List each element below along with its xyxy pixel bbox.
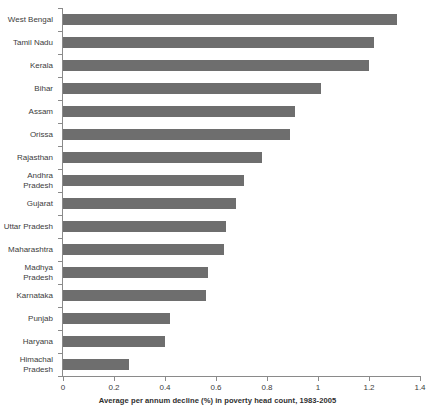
bar-row: [63, 215, 420, 238]
category-label: Uttar Pradesh: [0, 215, 58, 238]
bar-row: [63, 261, 420, 284]
bar-row: [63, 8, 420, 31]
y-axis-tick: [58, 100, 62, 101]
x-axis-tick-label: 0.4: [145, 383, 185, 392]
y-axis-tick: [58, 376, 62, 377]
category-label-text: Tamil Nadu: [13, 38, 58, 48]
category-label: Assam: [0, 100, 58, 123]
x-axis-tick-label: 1.4: [400, 383, 435, 392]
bar-row: [63, 77, 420, 100]
x-axis-tick: [63, 377, 64, 381]
category-label-text: Punjab: [28, 314, 58, 324]
x-axis-tick: [114, 377, 115, 381]
category-label-text: Madhya Pradesh: [0, 263, 58, 282]
category-label: Kerala: [0, 54, 58, 77]
bar: [63, 267, 208, 278]
bar: [63, 14, 397, 25]
category-label-text: Assam: [29, 107, 58, 117]
category-label-text: Haryana: [23, 337, 58, 347]
bar: [63, 83, 321, 94]
category-label: Andhra Pradesh: [0, 169, 58, 192]
category-label-text: Maharashtra: [8, 245, 58, 255]
x-axis-tick: [165, 377, 166, 381]
y-axis-tick: [58, 169, 62, 170]
category-label-text: Himachal Pradesh: [0, 355, 58, 374]
y-axis-tick: [58, 123, 62, 124]
category-label: Tamil Nadu: [0, 31, 58, 54]
bar-row: [63, 284, 420, 307]
y-axis-tick: [58, 215, 62, 216]
bar-row: [63, 31, 420, 54]
bar: [63, 60, 369, 71]
category-label-text: Rajasthan: [17, 153, 58, 163]
x-axis-tick-label: 1: [298, 383, 338, 392]
bar-row: [63, 100, 420, 123]
x-axis-tick-label: 0.2: [94, 383, 134, 392]
bar-row: [63, 307, 420, 330]
x-axis-line: [62, 376, 421, 377]
poverty-decline-bar-chart: West BengalTamil NaduKeralaBiharAssamOri…: [0, 0, 435, 413]
category-label: Punjab: [0, 307, 58, 330]
x-axis-tick-label: 1.2: [349, 383, 389, 392]
bar: [63, 129, 290, 140]
category-label: Orissa: [0, 123, 58, 146]
y-axis-tick: [58, 192, 62, 193]
x-axis-tick: [420, 377, 421, 381]
bar: [63, 175, 244, 186]
y-axis-tick: [58, 8, 62, 9]
x-axis-title: Average per annum decline (%) in poverty…: [0, 396, 435, 405]
bar: [63, 359, 129, 370]
bar: [63, 37, 374, 48]
x-axis-tick: [318, 377, 319, 381]
category-label: Karnataka: [0, 284, 58, 307]
bar-row: [63, 123, 420, 146]
category-label: Maharashtra: [0, 238, 58, 261]
category-label-text: Andhra Pradesh: [0, 171, 58, 190]
y-axis-tick: [58, 146, 62, 147]
category-label-text: Kerala: [30, 61, 58, 71]
category-axis-labels: West BengalTamil NaduKeralaBiharAssamOri…: [0, 8, 58, 376]
bar-row: [63, 146, 420, 169]
bar: [63, 152, 262, 163]
x-axis-tick: [369, 377, 370, 381]
x-axis-tick: [267, 377, 268, 381]
category-label: Himachal Pradesh: [0, 353, 58, 376]
plot-area: [63, 8, 420, 376]
category-label-text: Bihar: [34, 84, 58, 94]
x-axis-tick-label: 0.8: [247, 383, 287, 392]
bar-row: [63, 238, 420, 261]
category-label-text: West Bengal: [8, 15, 58, 25]
x-axis-tick-label: 0.6: [196, 383, 236, 392]
x-axis-tick-label: 0: [43, 383, 83, 392]
x-axis-tick: [216, 377, 217, 381]
y-axis-tick: [58, 238, 62, 239]
y-axis-tick: [58, 77, 62, 78]
y-axis-tick: [58, 353, 62, 354]
bar-row: [63, 353, 420, 376]
bar-row: [63, 192, 420, 215]
category-label: Haryana: [0, 330, 58, 353]
category-label-text: Orissa: [30, 130, 58, 140]
y-axis-tick: [58, 31, 62, 32]
bar-row: [63, 330, 420, 353]
category-label: West Bengal: [0, 8, 58, 31]
category-label-text: Uttar Pradesh: [4, 222, 58, 232]
bar: [63, 313, 170, 324]
y-axis-tick: [58, 330, 62, 331]
bar: [63, 106, 295, 117]
bar-row: [63, 169, 420, 192]
bar: [63, 198, 236, 209]
category-label-text: Gujarat: [27, 199, 58, 209]
category-label: Gujarat: [0, 192, 58, 215]
bar: [63, 244, 224, 255]
y-axis-tick: [58, 54, 62, 55]
bar: [63, 290, 206, 301]
bar: [63, 221, 226, 232]
y-axis-tick: [58, 284, 62, 285]
category-label: Rajasthan: [0, 146, 58, 169]
category-label-text: Karnataka: [17, 291, 58, 301]
bar-row: [63, 54, 420, 77]
category-label: Bihar: [0, 77, 58, 100]
y-axis-tick: [58, 261, 62, 262]
y-axis-tick: [58, 307, 62, 308]
